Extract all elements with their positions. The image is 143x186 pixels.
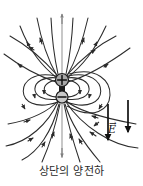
- field-lines-left-outer: [4, 18, 58, 82]
- field-arrow-loop-left-medium-icon: [34, 94, 35, 98]
- field-line-left-3: [37, 18, 57, 76]
- field-arrow-lower-right-3-icon: [79, 139, 82, 144]
- field-line-lower-right-1: [65, 100, 136, 124]
- field-arrow-loop-right-xlarge-icon: [94, 122, 99, 126]
- field-line-left-2: [20, 26, 57, 78]
- e-field-label-text: E: [108, 123, 116, 136]
- field-arrow-loop-left-large-icon: [22, 104, 25, 109]
- field-loop-left-large: [23, 75, 58, 105]
- field-line-left-1: [10, 36, 58, 76]
- field-arrow-loop-right-medium-icon: [89, 94, 90, 98]
- field-line-right-1: [66, 36, 116, 76]
- field-arrow-lower-left-3-icon: [42, 142, 45, 147]
- field-arrow-lower-right-1-icon: [92, 116, 98, 118]
- field-line-lower-left-4: [42, 104, 60, 162]
- dipole-charges: [56, 74, 69, 104]
- field-arrow-lower-right-2-icon: [90, 132, 96, 136]
- field-arrow-loop-right-large-icon: [99, 104, 102, 109]
- e-field-label: → E: [108, 121, 117, 135]
- field-line-canvas: [0, 0, 143, 186]
- field-line-lower-right-4: [64, 104, 80, 162]
- field-lines-lower: [6, 100, 138, 162]
- field-arrow-lower-left-2-icon: [28, 138, 33, 141]
- field-line-right-2: [67, 26, 106, 78]
- figure-caption: 상단의 양전하: [0, 162, 143, 178]
- field-loop-right-large: [66, 75, 101, 105]
- electric-dipole-figure: → E 상단의 양전하: [0, 0, 143, 186]
